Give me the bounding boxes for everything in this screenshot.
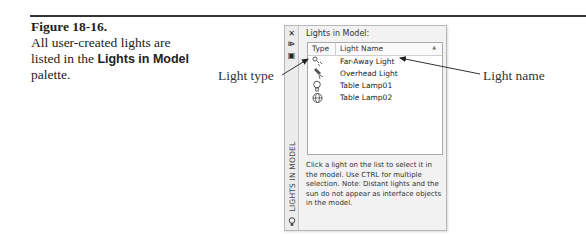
arrow-to-name: [400, 58, 480, 74]
arrow-to-type: [282, 59, 308, 75]
